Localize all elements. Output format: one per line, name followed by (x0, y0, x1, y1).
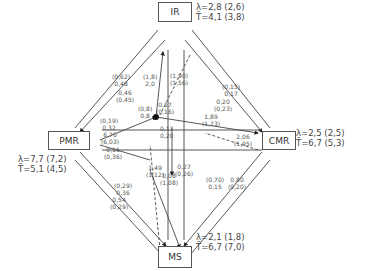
label-ir-hub-dash: (1,90)(1,56) (170, 72, 188, 86)
label-pmr-hub-low: 0,15(0,36) (104, 146, 122, 160)
ir-t: T̄=4,1 (3,8) (196, 12, 245, 22)
label-hub-cmr: 1,89(1,73) (202, 113, 220, 127)
label-ms-hub: 0,08(1,08) (160, 172, 178, 186)
node-ms-stats: λ=2,1 (1,8) T̄=6,7 (7,0) (196, 232, 245, 252)
cmr-lambda: λ=2,5 (2,5) (296, 128, 345, 138)
ms-t: T̄=6,7 (7,0) (196, 242, 245, 252)
node-ir-label: IR (171, 7, 180, 17)
label-center-down: 0,170,20 (160, 125, 173, 139)
node-ms-label: MS (168, 252, 181, 262)
node-cmr-label: CMR (269, 136, 289, 146)
node-ir-stats: λ=2,8 (2,6) T̄=4,1 (3,8) (196, 2, 245, 22)
label-cmr-hub-dash: 2,06(1,95) (234, 133, 252, 147)
label-cmr-ms-outer: (0,70)0,15 (206, 176, 224, 190)
label-ir-cmr-outer: (0,15)0,17 (222, 83, 240, 97)
ms-lambda: λ=2,1 (1,8) (196, 232, 245, 242)
node-pmr: PMR (48, 131, 90, 150)
label-pmr-ms-outer: (0,29)0,36 (114, 182, 132, 196)
label-pmr-ir-outer: (0,62)0,48 (112, 73, 130, 87)
label-hub-center: (0,8)0,8 (138, 105, 152, 119)
node-ms: MS (158, 246, 192, 268)
cmr-t: T̄=6,7 (5,3) (296, 138, 345, 148)
ir-lambda: λ=2,8 (2,6) (196, 2, 245, 12)
label-pmr-ms-inner: 0,54(0,29) (110, 196, 128, 210)
label-hub-center2: 0,17(0,16) (156, 101, 174, 115)
label-hub-ir: (1,8)2,0 (143, 73, 157, 87)
node-pmr-stats: λ=7,7 (7,2) T̄=5,1 (4,5) (18, 154, 67, 174)
label-cmr-ms-inner: 0,80(0,20) (228, 176, 246, 190)
pmr-lambda: λ=7,7 (7,2) (18, 154, 67, 164)
pmr-t: T̄=5,1 (4,5) (18, 164, 67, 174)
node-cmr-stats: λ=2,5 (2,5) T̄=6,7 (5,3) (296, 128, 345, 148)
node-cmr: CMR (262, 131, 296, 150)
label-pmr-hub-upper: (0,19)0,32 (100, 117, 118, 131)
label-pmr-ir-inner: 0,46(0,45) (116, 89, 134, 103)
label-ir-cmr-inner: 0,20(0,23) (214, 98, 232, 112)
label-pmr-hub-mid: 6,70(6,03) (101, 131, 119, 145)
node-ir: IR (158, 2, 192, 22)
node-pmr-label: PMR (59, 136, 78, 146)
